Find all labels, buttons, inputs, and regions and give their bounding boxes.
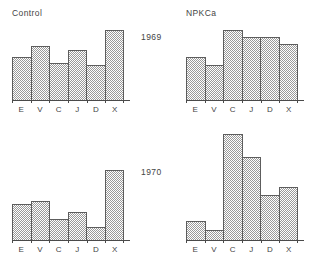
axis-tick [261,240,262,243]
panel-npkca-1969: NPKCa E V C J D X [186,8,311,128]
tick-label-D: D [87,105,106,114]
tick-label-D: D [87,245,106,254]
tick-label-V: V [31,245,50,254]
bar-C [223,134,243,240]
x-axis-ticks [12,100,124,103]
panel-npkca-1970: E V C J D X [186,148,311,268]
row-label-1970: 1970 [141,167,162,177]
bar-E [186,221,206,240]
bar-C [49,219,69,240]
bar-J [242,157,262,240]
axis-tick [31,100,32,103]
axis-tick [68,100,69,103]
axis-tick [49,100,50,103]
bar-group [12,30,124,100]
tick-label-V: V [205,245,224,254]
tick-label-X: X [279,245,298,254]
axis-tick [261,100,262,103]
axis-tick [12,240,13,243]
bar-E [12,204,32,240]
tick-label-J: J [242,245,261,254]
axis-tick [105,100,106,103]
panel-title-npkca: NPKCa [186,8,216,18]
tick-label-E: E [12,245,31,254]
tick-label-X: X [105,245,124,254]
plot-area-npkca-1970 [186,134,298,240]
bar-D [86,227,106,240]
row-label-1969: 1969 [141,32,162,42]
tick-label-X: X [105,105,124,114]
axis-tick [31,240,32,243]
axis-tick [12,100,13,103]
tick-label-D: D [261,105,280,114]
figure-canvas: Control E V C J D [0,0,311,280]
bar-C [49,63,69,100]
axis-tick [297,240,298,243]
axis-tick [223,100,224,103]
tick-label-E: E [186,245,205,254]
bar-J [242,37,262,100]
bar-group [186,134,298,240]
axis-tick [87,240,88,243]
bar-D [86,65,106,100]
axis-tick [123,100,124,103]
bar-D [260,195,280,240]
axis-tick [205,240,206,243]
plot-area-npkca-1969 [186,30,298,100]
axis-tick [279,240,280,243]
bar-X [279,44,299,100]
bar-group [12,170,124,240]
tick-label-E: E [12,105,31,114]
bar-V [205,230,225,240]
bar-E [186,57,206,100]
bar-E [12,57,32,100]
axis-tick [123,240,124,243]
tick-label-V: V [31,105,50,114]
x-axis-tick-labels: E V C J D X [12,105,124,114]
bar-X [279,187,299,240]
panel-control-1969: Control E V C J D [12,8,137,128]
tick-label-X: X [279,105,298,114]
axis-tick [186,240,187,243]
axis-tick [242,100,243,103]
x-axis-ticks [186,240,298,243]
tick-label-J: J [68,105,87,114]
bar-X [105,30,125,100]
axis-tick [186,100,187,103]
x-axis-tick-labels: E V C J D X [186,105,298,114]
axis-tick [242,240,243,243]
x-axis-ticks [12,240,124,243]
bar-V [31,201,51,240]
tick-label-E: E [186,105,205,114]
bar-V [31,46,51,100]
axis-tick [205,100,206,103]
tick-label-J: J [242,105,261,114]
tick-label-C: C [49,245,68,254]
axis-tick [279,100,280,103]
axis-tick [297,100,298,103]
tick-label-C: C [223,105,242,114]
plot-area-control-1969 [12,30,124,100]
tick-label-D: D [261,245,280,254]
bar-C [223,30,243,100]
axis-tick [223,240,224,243]
bar-J [68,50,88,100]
tick-label-V: V [205,105,224,114]
bar-J [68,212,88,240]
axis-tick [49,240,50,243]
tick-label-C: C [49,105,68,114]
axis-tick [87,100,88,103]
axis-tick [105,240,106,243]
axis-tick [68,240,69,243]
x-axis-tick-labels: E V C J D X [12,245,124,254]
tick-label-J: J [68,245,87,254]
panel-title-control: Control [12,8,42,18]
panel-control-1970: E V C J D X [12,148,137,268]
plot-area-control-1970 [12,170,124,240]
bar-X [105,170,125,240]
bar-V [205,65,225,100]
bar-D [260,37,280,100]
x-axis-ticks [186,100,298,103]
x-axis-tick-labels: E V C J D X [186,245,298,254]
tick-label-C: C [223,245,242,254]
